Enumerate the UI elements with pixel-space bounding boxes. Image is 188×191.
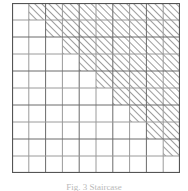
grid-cell-hatched: [163, 122, 180, 139]
figure-caption-text: Fig. 3 Staircase: [0, 183, 188, 191]
grid-cell-hatched: [96, 37, 113, 54]
grid-cell-hatched: [163, 20, 180, 37]
grid-cell-hatched: [62, 37, 79, 54]
grid-cell-hatched: [113, 20, 130, 37]
grid-cell-hatched: [130, 54, 147, 71]
grid-cell-hatched: [113, 88, 130, 105]
grid-cell-hatched: [146, 20, 163, 37]
grid-cell-hatched: [79, 37, 96, 54]
grid-cell-hatched: [113, 71, 130, 88]
grid-cell-hatched: [79, 3, 96, 20]
staircase-grid-svg: [12, 3, 180, 173]
grid-cell-hatched: [146, 37, 163, 54]
grid-cell-hatched: [29, 3, 46, 20]
grid-cell-hatched: [113, 37, 130, 54]
grid-cell-hatched: [163, 88, 180, 105]
grid-cell-hatched: [96, 3, 113, 20]
grid-cell-hatched: [146, 122, 163, 139]
grid-cell-hatched: [46, 3, 63, 20]
grid-cell-hatched: [163, 37, 180, 54]
grid-cell-hatched: [79, 54, 96, 71]
grid-cell-hatched: [163, 71, 180, 88]
grid-cell-hatched: [163, 105, 180, 122]
grid-cell-hatched: [130, 37, 147, 54]
grid-cell-hatched: [130, 3, 147, 20]
grid-cell-hatched: [113, 3, 130, 20]
grid-cell-hatched: [163, 3, 180, 20]
grid-cell-hatched: [130, 105, 147, 122]
grid-cell-hatched: [146, 105, 163, 122]
grid-cell-hatched: [96, 20, 113, 37]
grid-cell-hatched: [146, 54, 163, 71]
grid-cell-hatched: [62, 3, 79, 20]
grid-cell-hatched: [113, 54, 130, 71]
grid-cell-hatched: [146, 3, 163, 20]
grid-cell-hatched: [79, 20, 96, 37]
grid-cell-hatched: [96, 71, 113, 88]
grid-cell-hatched: [163, 54, 180, 71]
grid-cell-hatched: [130, 71, 147, 88]
grid-cell-hatched: [163, 139, 180, 156]
grid-container: [12, 3, 180, 173]
figure-caption: Fig. 3 Staircase: [0, 183, 188, 191]
grid-cell-hatched: [62, 20, 79, 37]
grid-cell-hatched: [96, 54, 113, 71]
grid-cell-hatched: [146, 88, 163, 105]
grid-cell-hatched: [46, 20, 63, 37]
grid-cell-hatched: [146, 71, 163, 88]
grid-cell-hatched: [130, 20, 147, 37]
figure-container: Fig. 3 Staircase: [0, 0, 188, 191]
grid-cell-hatched: [130, 88, 147, 105]
